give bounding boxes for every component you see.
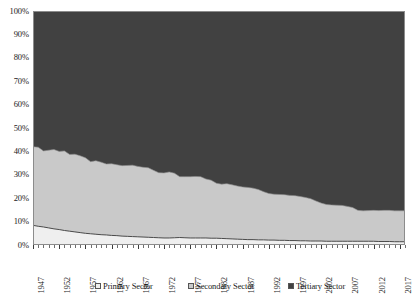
x-tick-mark <box>169 245 170 248</box>
legend-item-tertiary-sector[interactable]: Tertiary Sector <box>288 281 345 291</box>
y-tick-label: 0% <box>18 241 29 250</box>
x-tick-mark <box>75 245 76 248</box>
y-tick-label: 10% <box>14 217 29 226</box>
x-tick-mark <box>96 245 97 248</box>
x-tick-mark <box>43 245 44 248</box>
legend-swatch-icon <box>95 283 101 289</box>
x-tick-mark <box>258 245 259 248</box>
stacked-area-chart: 0%10%20%30%40%50%60%70%80%90%100% 194719… <box>0 0 418 301</box>
x-tick-mark <box>274 245 275 248</box>
x-tick-mark <box>363 245 364 248</box>
y-axis: 0%10%20%30%40%50%60%70%80%90%100% <box>0 0 31 301</box>
x-tick-mark <box>389 245 390 248</box>
x-tick-mark <box>290 245 291 248</box>
x-tick-mark <box>64 245 65 248</box>
x-tick-mark <box>54 245 55 248</box>
x-tick-mark <box>279 245 280 248</box>
legend-label: Secondary Sector <box>196 281 254 291</box>
x-tick-mark <box>49 245 50 248</box>
x-tick-mark <box>227 245 228 248</box>
y-tick-label: 40% <box>14 147 29 156</box>
x-tick-mark <box>180 245 181 248</box>
x-tick-mark <box>284 245 285 248</box>
plot-area <box>33 11 405 245</box>
x-tick-mark <box>405 245 406 248</box>
x-tick-mark <box>201 245 202 248</box>
x-tick-mark <box>311 245 312 248</box>
x-tick-mark <box>106 245 107 248</box>
x-tick-mark <box>80 245 81 248</box>
x-tick-mark <box>342 245 343 248</box>
x-tick-mark <box>305 245 306 248</box>
y-tick-label: 50% <box>14 124 29 133</box>
x-tick-mark <box>122 245 123 248</box>
x-tick-mark <box>232 245 233 248</box>
legend-swatch-icon <box>288 283 294 289</box>
x-tick-mark <box>358 245 359 248</box>
x-tick-mark <box>353 245 354 248</box>
x-tick-mark <box>159 245 160 248</box>
x-tick-mark <box>368 245 369 248</box>
y-tick-label: 60% <box>14 100 29 109</box>
x-tick-mark <box>253 245 254 248</box>
chart-legend: Primary SectorSecondary SectorTertiary S… <box>33 281 405 293</box>
x-tick-mark <box>101 245 102 248</box>
area-series-group <box>33 11 405 245</box>
x-tick-mark <box>70 245 71 248</box>
x-tick-mark <box>38 245 39 248</box>
y-tick-label: 70% <box>14 77 29 86</box>
x-tick-mark <box>127 245 128 248</box>
legend-label: Primary Sector <box>103 281 153 291</box>
x-tick-mark <box>316 245 317 248</box>
legend-swatch-icon <box>188 283 194 289</box>
x-tick-mark <box>148 245 149 248</box>
y-tick-label: 20% <box>14 194 29 203</box>
legend-item-secondary-sector[interactable]: Secondary Sector <box>188 281 254 291</box>
x-tick-mark <box>91 245 92 248</box>
x-tick-mark <box>332 245 333 248</box>
x-tick-mark <box>300 245 301 248</box>
x-tick-mark <box>117 245 118 248</box>
x-tick-mark <box>379 245 380 248</box>
legend-label: Tertiary Sector <box>296 281 345 291</box>
y-tick-label: 80% <box>14 53 29 62</box>
x-tick-mark <box>174 245 175 248</box>
x-tick-mark <box>206 245 207 248</box>
x-tick-mark <box>222 245 223 248</box>
x-tick-mark <box>264 245 265 248</box>
x-tick-label: 2017 <box>404 277 413 294</box>
x-tick-mark <box>384 245 385 248</box>
y-tick-label: 90% <box>14 30 29 39</box>
x-tick-mark <box>248 245 249 248</box>
x-tick-mark <box>326 245 327 248</box>
x-tick-mark <box>395 245 396 248</box>
x-axis: 1947195219571962196719721977198219871992… <box>33 249 405 279</box>
x-tick-mark <box>143 245 144 248</box>
y-tick-label: 30% <box>14 170 29 179</box>
legend-item-primary-sector[interactable]: Primary Sector <box>95 281 153 291</box>
x-tick-mark <box>211 245 212 248</box>
y-tick-label: 100% <box>10 7 29 16</box>
x-tick-mark <box>237 245 238 248</box>
x-tick-mark <box>195 245 196 248</box>
x-tick-mark <box>154 245 155 248</box>
x-tick-mark <box>185 245 186 248</box>
x-tick-mark <box>337 245 338 248</box>
x-tick-mark <box>133 245 134 248</box>
